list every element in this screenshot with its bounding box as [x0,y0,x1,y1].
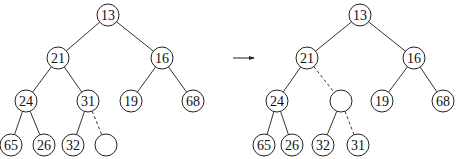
tree-node: 65 [0,134,22,156]
node-label: 19 [124,94,138,109]
node-label: 13 [101,8,115,23]
edges-layer [15,22,437,135]
node-label: 13 [353,8,367,23]
tree-node: 31 [347,134,369,156]
node-label: 68 [436,94,450,109]
tree-node-hole [330,90,352,112]
nodes-layer: 1321162431196865263213211624196865263231 [0,4,454,156]
tree-node: 21 [296,47,318,69]
tree-node: 68 [182,90,204,112]
node-label: 24 [19,94,33,109]
node-circle [330,90,352,112]
tree-node-hole [95,134,117,156]
tree-edge [137,67,155,92]
node-label: 65 [4,138,18,153]
node-label: 21 [51,51,65,66]
tree-node: 26 [281,134,303,156]
node-label: 31 [81,94,95,109]
tree-edge [77,111,85,134]
tree-edge [389,67,408,92]
tree-edge [168,67,186,92]
tree-edge [281,111,289,134]
tree-node: 21 [47,47,69,69]
tree-node: 68 [432,90,454,112]
node-label: 26 [285,138,299,153]
node-label: 31 [351,138,365,153]
tree-edge [30,111,40,135]
tree-node: 31 [77,90,99,112]
node-circle [95,134,117,156]
tree-edge-dashed [92,111,102,135]
node-label: 16 [407,51,421,66]
tree-node: 19 [120,90,142,112]
node-label: 68 [186,94,200,109]
tree-edge [369,22,406,51]
tree-node: 24 [266,90,288,112]
node-label: 24 [270,94,284,109]
tree-edge [283,67,300,92]
tree-node: 16 [151,47,173,69]
tree-edge [15,111,23,134]
tree-node: 24 [15,90,37,112]
node-label: 16 [155,51,169,66]
tree-edge-dashed [314,67,334,93]
tree-node: 13 [97,4,119,26]
node-label: 65 [257,138,271,153]
tree-node: 19 [371,90,393,112]
tree-node: 32 [312,134,334,156]
node-label: 32 [316,138,330,153]
heap-percolate-up-diagram: 1321162431196865263213211624196865263231 [0,0,456,159]
node-label: 32 [66,138,80,153]
tree-edge [66,22,99,51]
tree-node: 16 [403,47,425,69]
tree-node: 65 [253,134,275,156]
tree-edge [64,67,81,92]
tree-edge [267,112,274,135]
tree-node: 32 [62,134,84,156]
tree-edge [327,111,337,135]
tree-edge [316,22,352,51]
tree-edge [420,67,437,92]
node-label: 19 [375,94,389,109]
tree-edge [33,67,52,92]
node-label: 26 [37,138,51,153]
node-label: 21 [300,51,314,66]
tree-edge-dashed [345,111,354,134]
tree-edge [117,22,154,51]
tree-node: 26 [33,134,55,156]
tree-node: 13 [349,4,371,26]
